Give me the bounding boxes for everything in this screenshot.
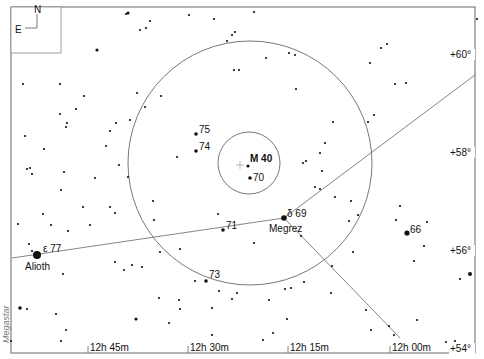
star [388,325,390,327]
star [253,242,255,244]
ra-tick-label: 12h 00m [392,342,431,353]
star [211,334,213,336]
star [284,288,286,290]
star [118,164,120,166]
star [60,340,62,342]
star-marker [194,132,198,136]
star [178,299,180,301]
star-label: 71 [226,220,238,231]
star [413,260,415,262]
chart-frame [11,7,475,353]
star [302,162,304,164]
star-marker [194,149,198,153]
star [294,54,296,56]
star [416,319,418,321]
dec-tick-label: +60° [450,49,471,60]
star [348,220,350,222]
star [226,40,228,42]
star-label: Alioth [25,261,50,272]
star-marker [404,230,409,235]
star [459,278,461,280]
star [29,167,31,169]
star-label: 66 [410,224,422,235]
star [290,287,292,289]
star [303,281,305,283]
star [28,243,30,245]
star [468,272,472,276]
star [262,339,264,341]
star [82,206,84,208]
star [272,332,274,334]
ra-tick-label: 12h 45m [90,342,129,353]
star [194,280,196,282]
star-marker [246,164,249,167]
star [253,11,255,13]
star [324,142,326,144]
star [62,273,64,275]
star [314,186,316,188]
star [334,196,336,198]
star [123,269,125,271]
star [286,318,288,320]
star [141,266,143,268]
star-label: Megrez [269,223,302,234]
star [305,160,307,162]
dec-tick-label: +56° [450,245,471,256]
star [126,11,129,14]
star [26,168,28,170]
star [321,170,323,172]
star [59,113,61,115]
star [188,14,190,16]
software-credit: Megastar [1,303,11,343]
star [129,119,131,121]
star-label: 73 [209,269,221,280]
star [218,290,220,292]
star [127,176,129,178]
star-marker [248,176,252,180]
star [59,83,61,85]
star [134,317,137,320]
star [238,69,240,71]
star-chart: NE M 40707574δ 69Megrez717366ε 77Alioth … [0,0,484,359]
dec-tick-label: +58° [450,147,471,158]
star [211,307,213,309]
star [176,156,178,158]
star [331,265,333,267]
east-label: E [15,24,22,35]
star-label: 74 [199,141,211,152]
star [370,329,372,331]
star [17,223,19,225]
star [114,261,116,263]
star-label: δ 69 [287,208,307,219]
star [31,173,33,175]
star [18,306,22,310]
star [369,62,371,64]
star [159,251,161,253]
star [115,122,117,124]
star [109,130,111,132]
star [367,121,369,123]
star [300,235,302,237]
star [217,213,219,215]
star [405,82,407,84]
star [109,206,111,208]
star [330,292,332,294]
star [426,221,428,223]
star [454,340,456,342]
star [395,219,397,221]
star [67,230,69,232]
star [231,298,233,300]
star [145,27,147,29]
star [295,88,297,90]
star [386,43,388,45]
star [153,219,155,221]
north-label: N [34,4,41,15]
star [139,29,141,31]
star [288,52,290,54]
star [22,83,24,85]
star [350,200,352,202]
star [179,308,181,310]
star [31,250,33,252]
star [265,57,267,59]
star [152,200,154,202]
